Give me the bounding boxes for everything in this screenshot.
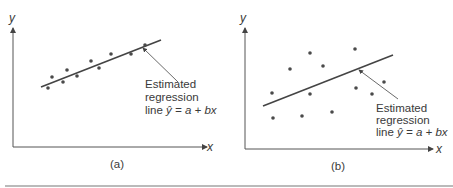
annotation-line1: Estimated [145, 78, 196, 90]
data-points [270, 47, 386, 120]
y-axis-label: y [8, 11, 16, 25]
annotation-line1: Estimated [376, 102, 427, 114]
panel-b: y x Estimated regression line ŷ = a + bx… [239, 11, 449, 172]
panel-caption: (b) [331, 160, 345, 172]
annotation-line3: line ŷ = a + bx [376, 126, 449, 138]
annotation-arrow [359, 70, 398, 99]
regression-line [41, 40, 161, 87]
annotation-line3: line ŷ = a + bx [145, 104, 218, 116]
panel-a: y x Estimated regression line ŷ = a + bx… [8, 11, 218, 170]
annotation-arrow [143, 48, 178, 82]
annotation-line2: regression [145, 91, 199, 103]
regression-figure: y x Estimated regression line ŷ = a + bx… [0, 0, 453, 188]
x-axis-label: x [206, 140, 214, 154]
panel-caption: (a) [110, 158, 124, 170]
annotation-line2: regression [376, 114, 430, 126]
x-axis-label: x [435, 142, 443, 156]
y-axis-label: y [239, 11, 247, 25]
data-points [46, 43, 147, 90]
